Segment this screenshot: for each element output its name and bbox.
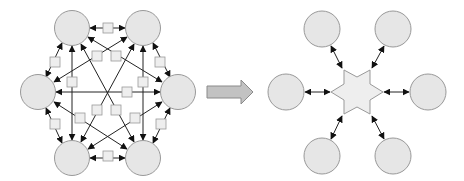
link-box [67, 77, 77, 87]
spoke-top-right [372, 46, 384, 68]
link-box [92, 51, 102, 61]
link-box [50, 57, 60, 67]
node-bottom-left [304, 138, 340, 174]
mesh-panel [21, 11, 196, 176]
node-top-right [126, 11, 161, 46]
mesh-to-hub-diagram [0, 0, 464, 181]
node-top-left [304, 11, 340, 47]
spoke-bottom-left [331, 116, 342, 139]
node-top-right [375, 11, 411, 47]
link-box [122, 87, 132, 97]
link-box [92, 105, 102, 115]
link-box [130, 113, 140, 123]
link-box [50, 119, 60, 129]
node-bottom-left [55, 141, 90, 176]
node-right [161, 75, 196, 110]
node-right [410, 74, 446, 110]
spoke-bottom-right [372, 116, 384, 139]
transition-arrow-icon [207, 80, 253, 104]
hub-star [331, 70, 383, 114]
spoke-top-left [331, 46, 342, 68]
link-box [156, 119, 166, 129]
node-bottom-right [375, 138, 411, 174]
link-box [111, 51, 121, 61]
link-box [103, 23, 113, 33]
node-left [21, 75, 56, 110]
link-box [103, 151, 113, 161]
link-box [155, 57, 165, 67]
node-bottom-right [126, 141, 161, 176]
hub-panel [268, 11, 446, 174]
node-top-left [55, 11, 90, 46]
link-box [138, 77, 148, 87]
mesh-links [46, 28, 170, 158]
link-box [75, 113, 85, 123]
node-left [268, 74, 304, 110]
link-box [111, 105, 121, 115]
